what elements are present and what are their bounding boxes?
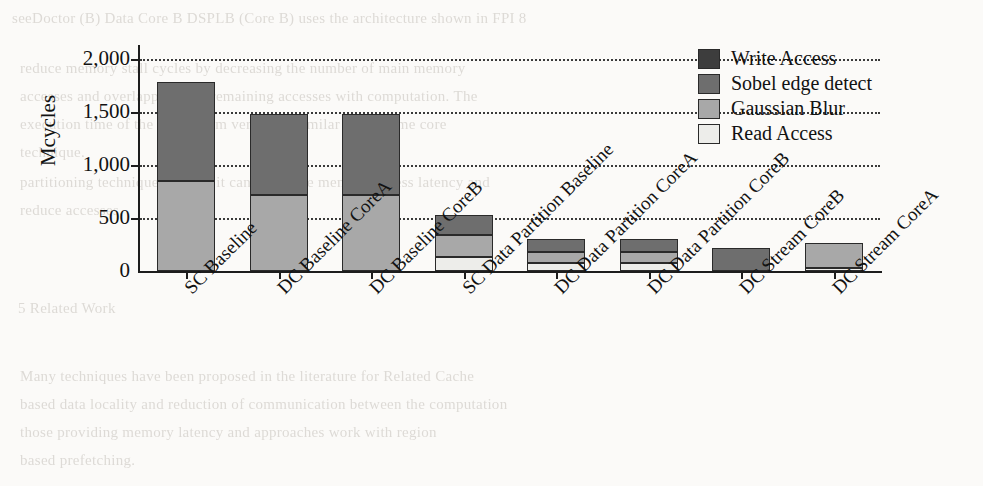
bleed-text-line: based data locality and reduction of com… (20, 396, 507, 413)
legend-swatch (698, 124, 720, 144)
legend-item[interactable]: Write Access (698, 46, 872, 71)
legend-item[interactable]: Gaussian Blur (698, 96, 872, 121)
y-tick-mark (131, 112, 140, 114)
y-axis-title: Mcycles (36, 71, 61, 191)
bar-group[interactable] (250, 48, 308, 271)
bar-group[interactable] (620, 48, 678, 271)
figure-canvas: seeDoctor (B) Data Core B DSPLB (Core B)… (0, 0, 983, 486)
y-tick-mark (131, 59, 140, 61)
bar-segment[interactable] (620, 239, 678, 252)
bar-segment[interactable] (527, 239, 585, 252)
bar-segment[interactable] (157, 82, 215, 181)
y-tick-label: 0 (120, 258, 131, 283)
legend-swatch (698, 74, 720, 94)
bleed-text-line: seeDoctor (B) Data Core B DSPLB (Core B)… (12, 10, 527, 27)
legend-label: Sobel edge detect (731, 72, 872, 95)
legend-item[interactable]: Sobel edge detect (698, 71, 872, 96)
legend-swatch (698, 99, 720, 119)
bar-segment[interactable] (435, 235, 493, 257)
legend-label: Gaussian Blur (731, 97, 845, 120)
bleed-text-line: 5 Related Work (18, 300, 116, 317)
bleed-text-line: based prefetching. (20, 452, 135, 469)
chart-legend: Write AccessSobel edge detectGaussian Bl… (698, 46, 872, 146)
bleed-text-line: those providing memory latency and appro… (20, 424, 437, 441)
y-tick-label: 1,500 (83, 99, 130, 124)
y-tick-label: 2,000 (83, 46, 130, 71)
legend-item[interactable]: Read Access (698, 121, 872, 146)
y-tick-label: 500 (99, 205, 131, 230)
legend-label: Read Access (731, 122, 833, 145)
y-axis-line (138, 45, 140, 273)
legend-swatch (698, 49, 720, 69)
bar-group[interactable] (157, 48, 215, 271)
legend-label: Write Access (731, 47, 836, 70)
y-tick-label: 1,000 (83, 152, 130, 177)
bar-segment[interactable] (250, 114, 308, 195)
y-tick-mark (131, 165, 140, 167)
bar-group[interactable] (342, 48, 400, 271)
y-tick-mark (131, 218, 140, 220)
bar-group[interactable] (527, 48, 585, 271)
bleed-text-line: Many techniques have been proposed in th… (20, 368, 474, 385)
bar-segment[interactable] (342, 114, 400, 195)
bar-group[interactable] (435, 48, 493, 271)
